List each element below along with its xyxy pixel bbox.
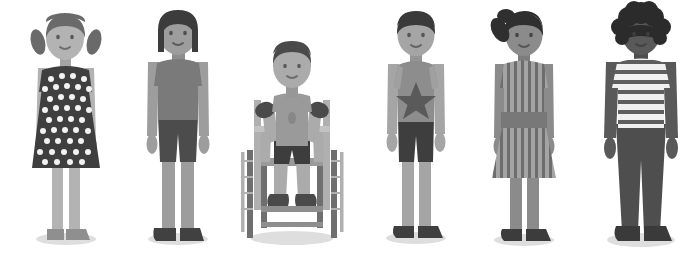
figure-girl-striped-dress — [472, 0, 576, 265]
figure-girl-polka-dot-dress — [14, 0, 114, 265]
illustration-canvas: Illustration of six diverse children sta… — [0, 0, 696, 265]
figure-girl-tshirt-shorts — [128, 0, 228, 265]
figure-boy-horizontal-stripe-shirt — [586, 0, 696, 265]
scene-title: Illustration of six diverse children sta… — [0, 0, 1, 1]
figure-boy-in-wheelchair — [232, 0, 352, 265]
figure-boy-star-tshirt — [366, 0, 466, 265]
